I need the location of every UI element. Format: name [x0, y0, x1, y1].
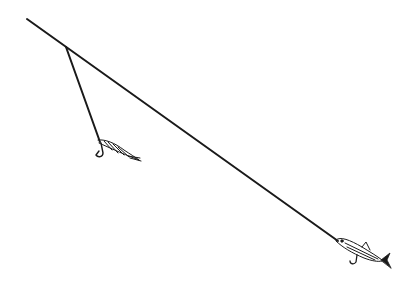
dropper-line [66, 47, 100, 142]
baitfish-icon [336, 238, 391, 268]
main-fishing-line [27, 19, 338, 241]
fishing-rig-illustration [0, 0, 411, 298]
fly-lure-icon [96, 140, 141, 161]
